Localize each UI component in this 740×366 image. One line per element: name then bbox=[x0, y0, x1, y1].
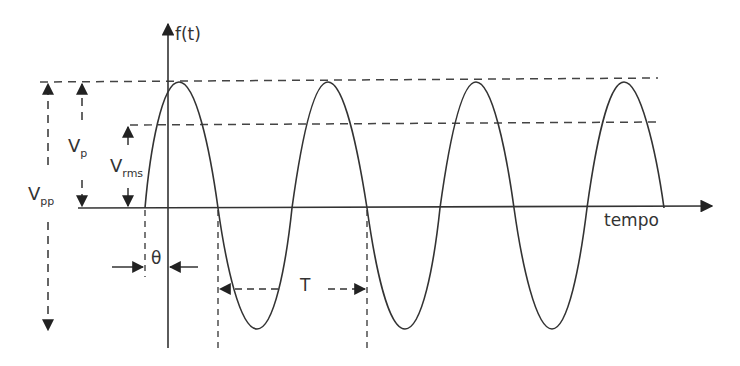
peak-reference-line bbox=[40, 78, 658, 82]
x-axis bbox=[78, 206, 712, 208]
sine-wave bbox=[145, 82, 664, 329]
vpp-label: Vpp bbox=[28, 183, 54, 208]
period-label: T bbox=[299, 275, 311, 295]
x-axis-label: tempo bbox=[604, 210, 659, 230]
vrms-label: Vrms bbox=[110, 155, 143, 180]
y-axis-label: f(t) bbox=[175, 24, 201, 44]
phase-label: θ bbox=[151, 248, 161, 268]
waveform-diagram: f(t) tempo Vpp Vp Vrms θ T bbox=[0, 0, 740, 366]
rms-reference-line bbox=[130, 122, 658, 125]
vp-label: Vp bbox=[68, 135, 87, 160]
period-marker bbox=[218, 210, 367, 348]
